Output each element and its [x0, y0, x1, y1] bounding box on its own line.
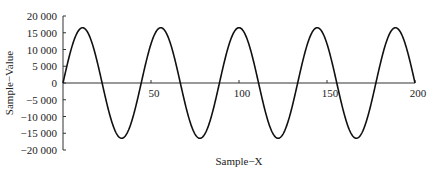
- y-axis-label: Sample−Value: [3, 51, 15, 115]
- sine-chart: 20 00015 00010 0005 0000−5 000−10 000−15…: [0, 0, 435, 174]
- y-tick-label: −10 000: [21, 111, 58, 123]
- y-tick-label: −20 000: [21, 144, 58, 156]
- y-tick-label: 10 000: [27, 44, 58, 56]
- x-tick-label: 150: [322, 87, 339, 99]
- y-axis-ticks: 20 00015 00010 0005 0000−5 000−10 000−15…: [21, 10, 66, 156]
- y-tick-label: −5 000: [26, 94, 57, 106]
- x-axis-label: Sample−X: [215, 155, 262, 167]
- y-tick-label: 5 000: [32, 60, 57, 72]
- x-tick-label: 50: [149, 87, 161, 99]
- x-tick-label: 200: [410, 87, 427, 99]
- x-tick-label: 100: [234, 87, 251, 99]
- y-tick-label: −15 000: [21, 127, 58, 139]
- y-tick-label: 15 000: [27, 27, 58, 39]
- y-tick-label: 0: [52, 77, 58, 89]
- y-tick-label: 20 000: [27, 10, 58, 22]
